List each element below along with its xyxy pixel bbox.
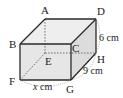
dimension-label-GH: 9 cm — [83, 65, 103, 76]
label-A: A — [41, 4, 49, 16]
label-B: B — [9, 38, 16, 50]
dimension-label-FG: x cm — [32, 81, 52, 92]
cuboid-diagram: A D B C E H F G 6 cm 9 cm x cm — [0, 0, 123, 98]
label-G: G — [66, 83, 74, 95]
label-D: D — [97, 5, 105, 17]
label-C: C — [72, 42, 79, 54]
label-F: F — [9, 75, 15, 87]
label-E: E — [45, 55, 52, 67]
label-H: H — [97, 53, 105, 65]
dimension-label-DH: 6 cm — [99, 32, 119, 43]
unit-cm: cm — [37, 81, 52, 92]
